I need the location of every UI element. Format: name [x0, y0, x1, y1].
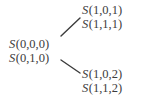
state-args: (1,0,1)	[89, 3, 122, 17]
state-args: (0,1,0)	[16, 51, 49, 65]
branching-diagram: S(0,0,0) S(0,1,0) S(1,0,1) S(1,1,1) S(1,…	[0, 0, 144, 101]
node-root-line-2: S(0,1,0)	[9, 51, 49, 65]
state-args: (1,1,1)	[89, 17, 122, 31]
edge-root-to-upper	[61, 18, 80, 36]
node-root-line-1: S(0,0,0)	[9, 37, 49, 51]
state-args: (0,0,0)	[16, 37, 49, 51]
node-upper-branch: S(1,0,1) S(1,1,1)	[82, 3, 122, 31]
node-lower-line-1: S(1,0,2)	[82, 67, 122, 81]
node-upper-line-2: S(1,1,1)	[82, 17, 122, 31]
state-symbol: S	[9, 37, 16, 51]
node-lower-branch: S(1,0,2) S(1,1,2)	[82, 67, 122, 95]
state-symbol: S	[82, 17, 89, 31]
state-symbol: S	[82, 3, 89, 17]
state-symbol: S	[82, 81, 89, 95]
state-symbol: S	[82, 67, 89, 81]
node-upper-line-1: S(1,0,1)	[82, 3, 122, 17]
state-args: (1,0,2)	[89, 67, 122, 81]
edge-root-to-lower	[61, 60, 80, 73]
node-lower-line-2: S(1,1,2)	[82, 81, 122, 95]
node-root: S(0,0,0) S(0,1,0)	[9, 37, 49, 65]
state-args: (1,1,2)	[89, 81, 122, 95]
state-symbol: S	[9, 51, 16, 65]
